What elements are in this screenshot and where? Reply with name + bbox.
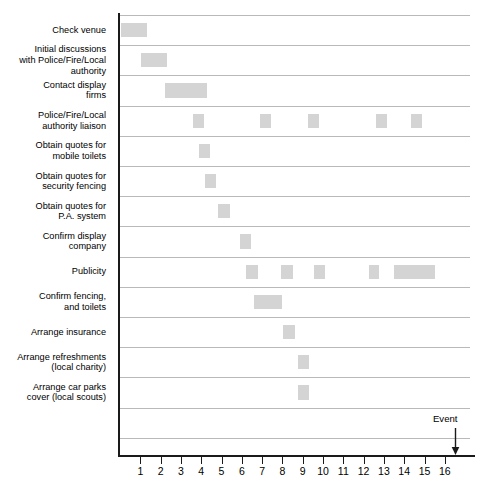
x-axis-tick-label: 5 (212, 465, 232, 477)
x-axis-tick (140, 457, 141, 464)
gridline (120, 75, 470, 76)
gantt-bar[interactable] (205, 174, 216, 188)
task-label: Contact displayfirms (0, 75, 112, 105)
gantt-bar[interactable] (314, 265, 325, 279)
x-axis-tick-label: 11 (333, 465, 353, 477)
task-label-line: Police/Fire/Local (38, 110, 106, 121)
task-label-line: Contact display (43, 80, 106, 91)
task-label-line: firms (86, 90, 106, 101)
gridline (120, 226, 470, 227)
gantt-bar[interactable] (240, 234, 251, 248)
x-axis-tick (364, 457, 365, 464)
gantt-bar[interactable] (254, 295, 282, 309)
task-label-line: and toilets (64, 302, 106, 313)
task-label-line: Confirm fencing, (39, 291, 106, 302)
gantt-bar[interactable] (260, 114, 271, 128)
gantt-bar[interactable] (376, 114, 387, 128)
task-label-line: cover (local scouts) (27, 392, 106, 403)
gridline (120, 15, 470, 16)
x-axis-tick (161, 457, 162, 464)
x-axis-tick (323, 457, 324, 464)
event-arrow-icon (451, 428, 460, 460)
task-label: Arrange car parkscover (local scouts) (0, 377, 112, 407)
gridline (120, 287, 470, 288)
x-axis-line (118, 455, 475, 457)
task-label-line: company (69, 241, 106, 252)
x-axis-tick-label: 10 (313, 465, 333, 477)
task-label-line: Arrange insurance (31, 327, 106, 338)
x-axis-tick-label: 8 (272, 465, 292, 477)
gantt-bar[interactable] (199, 144, 210, 158)
task-label-line: (local charity) (51, 362, 106, 373)
gantt-bar[interactable] (298, 385, 309, 399)
gridline (120, 136, 470, 137)
gridline (120, 196, 470, 197)
task-label-line: Confirm display (43, 231, 106, 242)
gridline (120, 106, 470, 107)
x-axis-tick-label: 14 (394, 465, 414, 477)
plot-area (120, 15, 470, 440)
gridline (120, 317, 470, 318)
gantt-bar[interactable] (121, 23, 147, 37)
task-label: Obtain quotes formobile toilets (0, 136, 112, 166)
x-axis-tick (303, 457, 304, 464)
gantt-bar[interactable] (165, 83, 208, 97)
x-axis-tick (384, 457, 385, 464)
gridline (120, 166, 470, 167)
x-axis-tick-label: 1 (130, 465, 150, 477)
x-axis-tick (425, 457, 426, 464)
gridline (120, 45, 470, 46)
task-label-line: Arrange car parks (33, 382, 106, 393)
x-axis-tick (282, 457, 283, 464)
x-axis-tick-label: 4 (191, 465, 211, 477)
event-label: Event (433, 413, 458, 424)
x-axis-tick (404, 457, 405, 464)
gantt-bar[interactable] (281, 265, 292, 279)
x-axis-tick (242, 457, 243, 464)
x-axis-tick-label: 6 (232, 465, 252, 477)
gantt-bar[interactable] (411, 114, 422, 128)
gantt-bar[interactable] (369, 265, 379, 279)
task-label: Arrange insurance (0, 317, 112, 347)
task-label-line: Arrange refreshments (17, 352, 106, 363)
task-label: Arrange refreshments(local charity) (0, 347, 112, 377)
gantt-bar[interactable] (283, 325, 294, 339)
x-axis-tick (222, 457, 223, 464)
task-label-line: Obtain quotes for (36, 140, 106, 151)
x-axis-tick (201, 457, 202, 464)
task-label-line: P.A. system (58, 211, 106, 222)
gantt-bar[interactable] (193, 114, 204, 128)
x-axis-tick-label: 2 (151, 465, 171, 477)
x-axis-tick (343, 457, 344, 464)
x-axis-tick-label: 3 (171, 465, 191, 477)
task-label-line: Obtain quotes for (36, 171, 106, 182)
gantt-chart: Check venueInitial discussionswith Polic… (0, 0, 491, 499)
gridline (120, 257, 470, 258)
gridline (120, 347, 470, 348)
task-label: Confirm displaycompany (0, 226, 112, 256)
task-label-line: security fencing (42, 181, 106, 192)
gantt-bar[interactable] (394, 265, 435, 279)
task-label: Obtain quotes forP.A. system (0, 196, 112, 226)
task-label: Police/Fire/Localauthority liaison (0, 106, 112, 136)
task-label: Initial discussionswith Police/Fire/Loca… (0, 45, 112, 75)
task-label-line: authority liaison (42, 121, 106, 132)
gantt-bar[interactable] (246, 265, 258, 279)
gantt-bar[interactable] (298, 355, 309, 369)
gridline (120, 438, 470, 439)
gantt-bar[interactable] (218, 204, 229, 218)
task-label-line: with Police/Fire/Local (19, 55, 106, 66)
x-axis-tick (445, 457, 446, 464)
task-label-line: Check venue (52, 25, 106, 36)
x-axis-tick-label: 9 (293, 465, 313, 477)
x-axis-tick (181, 457, 182, 464)
gantt-bar[interactable] (141, 53, 166, 67)
x-axis-tick (262, 457, 263, 464)
gantt-bar[interactable] (308, 114, 319, 128)
x-axis-tick-label: 13 (374, 465, 394, 477)
task-label-line: Initial discussions (35, 44, 107, 55)
task-label: Check venue (0, 15, 112, 45)
task-label-line: mobile toilets (52, 151, 106, 162)
x-axis-tick-label: 7 (252, 465, 272, 477)
task-label: Publicity (0, 257, 112, 287)
